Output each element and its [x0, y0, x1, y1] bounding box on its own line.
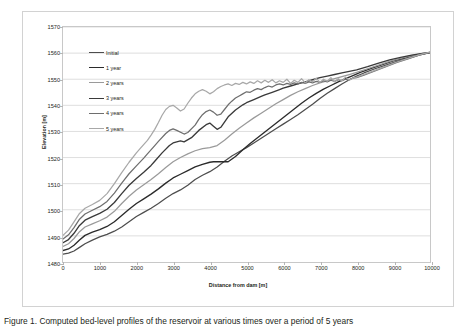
y-tick-label: 1500	[48, 208, 60, 214]
legend-label: 2 years	[106, 80, 124, 86]
x-tick-label: 0	[61, 265, 64, 271]
figure-caption: Figure 1. Computed bed-level profiles of…	[4, 316, 464, 329]
y-tick-mark	[60, 211, 63, 212]
y-tick-label: 1520	[48, 156, 60, 162]
x-tick-mark	[248, 262, 249, 265]
legend-swatch-icon	[89, 128, 104, 129]
legend-label: 5 years	[106, 126, 124, 132]
x-tick-label: 4000	[204, 265, 216, 271]
y-tick-label: 1490	[48, 235, 60, 241]
legend-label: 1 year	[106, 65, 121, 71]
figure-root: Elevation [m] 14801490150015101520153015…	[0, 0, 468, 329]
chart-container: Elevation [m] 14801490150015101520153015…	[22, 11, 454, 307]
x-tick-mark	[358, 262, 359, 265]
x-tick-label: 6000	[278, 265, 290, 271]
legend-label: 4 years	[106, 110, 124, 116]
y-tick-label: 1510	[48, 182, 60, 188]
y-tick-mark	[60, 106, 63, 107]
y-tick-label: 1550	[48, 77, 60, 83]
x-tick-mark	[432, 262, 433, 265]
legend-swatch-icon	[89, 113, 104, 114]
y-tick-mark	[60, 185, 63, 186]
chart-legend: Initial1 year2 years3 years4 years5 year…	[89, 45, 153, 136]
x-tick-label: 3000	[167, 265, 179, 271]
x-tick-label: 1000	[94, 265, 106, 271]
x-tick-mark	[100, 262, 101, 265]
y-tick-label: 1560	[48, 50, 60, 56]
legend-item-3[interactable]: 2 years	[89, 75, 153, 90]
legend-label: Initial	[106, 50, 119, 56]
x-tick-mark	[284, 262, 285, 265]
x-tick-mark	[211, 262, 212, 265]
y-tick-mark	[60, 238, 63, 239]
legend-swatch-icon	[89, 98, 104, 99]
x-tick-label: 5000	[241, 265, 253, 271]
legend-item-2[interactable]: 1 year	[89, 60, 153, 75]
x-tick-label: 7000	[315, 265, 327, 271]
legend-item-4[interactable]: 3 years	[89, 91, 153, 106]
legend-swatch-icon	[89, 82, 104, 83]
x-tick-label: 2000	[131, 265, 143, 271]
legend-item-6[interactable]: 5 years	[89, 121, 153, 136]
x-tick-mark	[63, 262, 64, 265]
x-tick-label: 9000	[389, 265, 401, 271]
x-tick-mark	[137, 262, 138, 265]
y-tick-mark	[60, 80, 63, 81]
x-tick-label: 10000	[424, 265, 440, 271]
x-tick-mark	[321, 262, 322, 265]
x-tick-mark	[395, 262, 396, 265]
legend-label: 3 years	[106, 95, 124, 101]
y-tick-label: 1540	[48, 103, 60, 109]
plot-area: 1480149015001510152015301540155015601570…	[62, 26, 431, 263]
x-tick-mark	[174, 262, 175, 265]
y-tick-mark	[60, 159, 63, 160]
y-tick-mark	[60, 27, 63, 28]
y-tick-label: 1530	[48, 129, 60, 135]
y-tick-label: 1480	[48, 261, 60, 267]
y-axis-title: Elevation [m]	[41, 92, 47, 172]
legend-swatch-icon	[89, 52, 104, 53]
y-tick-label: 1570	[48, 24, 60, 30]
y-tick-mark	[60, 53, 63, 54]
x-axis-title: Distance from dam [m]	[22, 282, 454, 288]
legend-item-5[interactable]: 4 years	[89, 106, 153, 121]
x-tick-label: 8000	[352, 265, 364, 271]
legend-item-1[interactable]: Initial	[89, 45, 153, 60]
y-tick-mark	[60, 132, 63, 133]
legend-swatch-icon	[89, 67, 104, 68]
